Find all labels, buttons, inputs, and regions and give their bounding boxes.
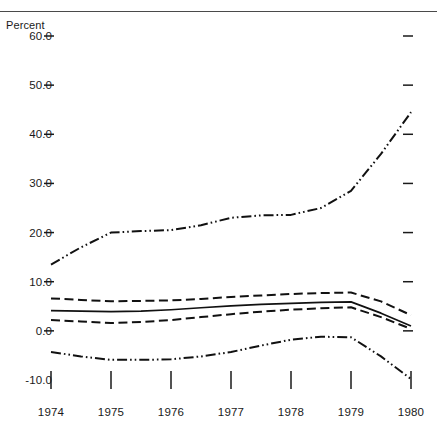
chart-plot-area — [0, 0, 437, 441]
x-axis-tick-label: 1980 — [398, 406, 424, 418]
x-axis-tick-label: 1974 — [38, 406, 64, 418]
x-axis-tick-label: 1975 — [98, 406, 124, 418]
series-line-upper-rising-series — [51, 112, 411, 264]
x-axis-tick-label: 1977 — [218, 406, 244, 418]
series-line-band-lower-series — [51, 307, 411, 329]
x-axis-tick-label: 1976 — [158, 406, 184, 418]
x-axis-ticks — [51, 371, 411, 389]
series-paths — [51, 112, 411, 379]
y-axis-ticks-left — [44, 36, 54, 331]
y-axis-ticks-right — [403, 36, 413, 331]
x-axis-tick-label: 1979 — [338, 406, 364, 418]
x-axis-tick-label: 1978 — [278, 406, 304, 418]
chart-container: Percent 60.050.040.030.020.010.00.0-10.0… — [0, 0, 437, 441]
